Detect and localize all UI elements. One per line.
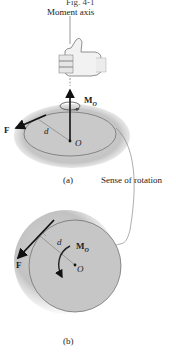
- point-label-a: O: [75, 138, 82, 148]
- point-o-b: [74, 264, 77, 267]
- moment-label-b: MO: [76, 241, 89, 255]
- sense-of-rotation-label: Sense of rotation: [101, 175, 162, 185]
- part-b-label: (b): [63, 336, 74, 346]
- part-a-label: (a): [63, 175, 73, 185]
- distance-label-b: d: [57, 237, 62, 247]
- point-label-b: O: [77, 264, 84, 274]
- moment-axis-label: Moment axis: [47, 7, 94, 17]
- moment-label-a: MO: [84, 95, 97, 109]
- right-hand-icon: [59, 38, 106, 76]
- force-label-b: F: [16, 260, 22, 270]
- force-label-a: F: [4, 125, 10, 135]
- point-o-a: [69, 140, 72, 143]
- distance-label-a: d: [44, 126, 49, 136]
- figure-caption: Fig. 4-1: [66, 0, 95, 7]
